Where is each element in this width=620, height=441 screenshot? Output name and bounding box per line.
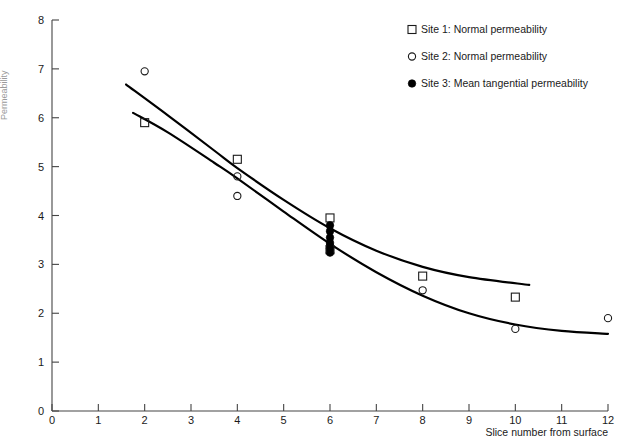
- y-tick-label: 7: [38, 63, 44, 75]
- x-tick-label: 6: [327, 414, 333, 426]
- data-point-marker: [419, 272, 427, 280]
- y-axis-title-group: Permeability: [0, 70, 9, 120]
- x-tick-group: 0123456789101112: [49, 404, 614, 426]
- data-point-marker: [234, 192, 241, 199]
- x-tick-label: 12: [602, 414, 614, 426]
- x-tick-label: 7: [373, 414, 379, 426]
- series-2-markers: [141, 68, 612, 333]
- data-point-marker: [512, 325, 519, 332]
- legend-marker-open-circle-icon: [408, 53, 415, 60]
- x-axis: 0123456789101112 Slice number from surfa…: [49, 404, 614, 438]
- x-tick-label: 8: [420, 414, 426, 426]
- legend-marker-open-square-icon: [408, 26, 416, 34]
- data-point-marker: [141, 68, 148, 75]
- y-tick-label: 1: [38, 356, 44, 368]
- y-tick-label: 5: [38, 161, 44, 173]
- data-point-marker: [511, 293, 519, 301]
- x-axis-title: Slice number from surface: [485, 426, 608, 438]
- y-axis: 012345678: [38, 14, 59, 417]
- data-point-marker: [604, 315, 611, 322]
- chart-container: Permeability 012345678 0123456789101112 …: [0, 0, 620, 441]
- data-point-marker: [326, 214, 334, 222]
- legend-item-label: Site 3: Mean tangential permeability: [421, 77, 589, 89]
- y-axis-title: Permeability: [0, 70, 9, 120]
- x-tick-label: 1: [95, 414, 101, 426]
- x-tick-label: 10: [509, 414, 521, 426]
- y-tick-label: 8: [38, 14, 44, 26]
- legend-item-label: Site 2: Normal permeability: [421, 50, 548, 62]
- x-tick-label: 11: [556, 414, 567, 426]
- x-tick-label: 4: [234, 414, 240, 426]
- y-tick-group: 012345678: [38, 14, 59, 417]
- legend: Site 1: Normal permeabilitySite 2: Norma…: [408, 23, 589, 89]
- y-tick-label: 3: [38, 258, 44, 270]
- series-1-markers: [141, 119, 520, 301]
- legend-item-1: Site 1: Normal permeability: [408, 23, 548, 35]
- data-point-marker: [419, 287, 426, 294]
- data-point-marker: [233, 155, 241, 163]
- y-tick-label: 0: [38, 405, 44, 417]
- legend-marker-filled-circle-icon: [408, 80, 416, 88]
- y-tick-label: 2: [38, 307, 44, 319]
- series-3-markers: [326, 221, 334, 256]
- y-tick-label: 6: [38, 112, 44, 124]
- x-tick-label: 3: [188, 414, 194, 426]
- y-tick-label: 4: [38, 210, 44, 222]
- legend-item-label: Site 1: Normal permeability: [421, 23, 548, 35]
- legend-item-2: Site 2: Normal permeability: [408, 50, 547, 62]
- legend-item-3: Site 3: Mean tangential permeability: [408, 77, 588, 89]
- data-point-marker: [326, 249, 334, 257]
- x-tick-label: 2: [142, 414, 148, 426]
- fit-curves-group: [126, 85, 608, 334]
- data-markers-group: [141, 68, 612, 333]
- x-tick-label: 5: [281, 414, 287, 426]
- permeability-scatter-chart: Permeability 012345678 0123456789101112 …: [0, 0, 620, 441]
- x-tick-label: 0: [49, 414, 55, 426]
- x-tick-label: 9: [466, 414, 472, 426]
- lower-fit-curve: [133, 113, 608, 334]
